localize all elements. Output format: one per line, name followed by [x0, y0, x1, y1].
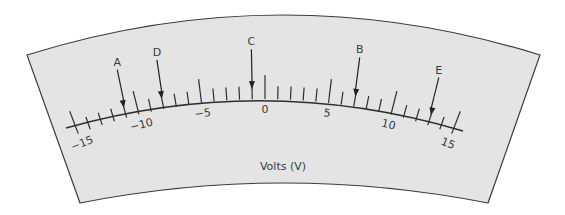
pointer-label: C — [248, 35, 256, 48]
pointer-label: B — [356, 43, 364, 56]
tick-label: −5 — [194, 106, 212, 121]
minor-tick — [290, 87, 291, 100]
unit-label: Volts (V) — [260, 160, 306, 173]
meter-face-panel — [27, 15, 540, 203]
minor-tick — [239, 87, 240, 100]
pointer-label: A — [113, 56, 121, 69]
tick-label: 0 — [262, 103, 269, 116]
pointer-label: E — [435, 64, 442, 77]
voltmeter-scale-diagram: −15−10−5051015 ADCBE Volts (V) — [0, 0, 565, 215]
pointer-label: D — [153, 46, 161, 59]
